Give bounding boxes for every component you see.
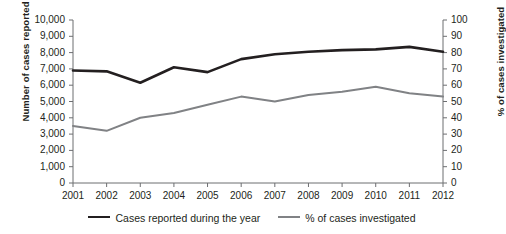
y-tick-label-left: 2,000 [0,145,65,155]
y-tick-label-left: 5,000 [0,97,65,107]
legend-line-swatch-icon [278,216,300,218]
y-tick-label-left: 4,000 [0,113,65,123]
y-tick-label-left: 10,000 [0,15,65,25]
legend-item-0[interactable]: Cases reported during the year [88,208,260,226]
legend-label: % of cases investigated [305,212,415,224]
y-tick-label-left: 3,000 [0,129,65,139]
y-tick-label-right: 30 [451,129,462,139]
y-tick-label-right: 70 [451,64,462,74]
y-tick-label-left: 6,000 [0,80,65,90]
y-tick-label-left: 1,000 [0,162,65,172]
y-tick-label-right: 100 [451,15,468,25]
chart-legend: Cases reported during the year% of cases… [0,207,504,226]
x-tick-label: 2012 [423,191,463,201]
y-tick-label-left: 9,000 [0,31,65,41]
y-tick-label-left: 8,000 [0,48,65,58]
y-tick-label-right: 20 [451,145,462,155]
y-tick-label-right: 10 [451,162,462,172]
y-tick-label-left: 7,000 [0,64,65,74]
y-tick-label-right: 60 [451,80,462,90]
legend-label: Cases reported during the year [115,212,260,224]
series-line-0 [73,47,443,83]
y-axis-right-title: % of cases investigated [495,0,506,142]
y-tick-label-left: 0 [0,178,65,188]
legend-line-swatch-icon [88,216,110,218]
legend-item-1[interactable]: % of cases investigated [278,208,415,226]
y-tick-label-right: 40 [451,113,462,123]
y-tick-label-right: 80 [451,48,462,58]
y-tick-label-right: 50 [451,97,462,107]
y-tick-label-right: 0 [451,178,457,188]
series-line-1 [73,87,443,131]
y-tick-label-right: 90 [451,31,462,41]
